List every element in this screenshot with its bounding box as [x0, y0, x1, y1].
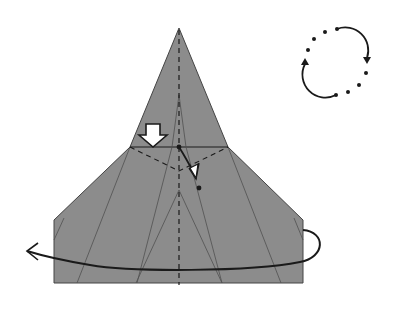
origami-diagram [0, 0, 398, 310]
rotation-icon [301, 27, 371, 98]
diagram-canvas [0, 0, 398, 310]
